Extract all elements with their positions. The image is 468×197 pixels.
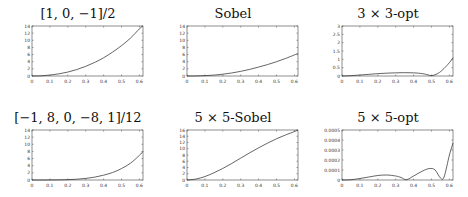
y-tick-label: 14 bbox=[24, 128, 30, 133]
plot-3x3-opt: 3 × 3-opt 00.511.522.5300.10.20.30.40.50… bbox=[310, 0, 466, 98]
x-tick-label: 0.6 bbox=[446, 183, 453, 188]
x-tick-label: 0.6 bbox=[136, 183, 143, 188]
plot-area: 0246810121400.10.20.30.40.50.6 bbox=[0, 104, 156, 197]
x-tick-label: 0 bbox=[341, 183, 344, 188]
plot-diff-5tap: [−1, 8, 0, −8, 1]/12 0246810121400.10.20… bbox=[0, 104, 156, 197]
x-tick-label: 0.5 bbox=[428, 79, 435, 84]
x-tick-label: 0 bbox=[186, 183, 189, 188]
x-tick-label: 0.2 bbox=[219, 79, 226, 84]
y-tick-label: 0.0002 bbox=[324, 158, 340, 163]
plot-area: 00.00010.00020.00030.00040.000500.10.20.… bbox=[310, 104, 466, 197]
y-tick-label: 0 bbox=[182, 178, 185, 183]
y-tick-label: 4 bbox=[27, 59, 30, 64]
data-curve bbox=[342, 143, 453, 180]
x-tick-label: 0.5 bbox=[118, 79, 125, 84]
x-tick-label: 0.5 bbox=[118, 183, 125, 188]
x-tick-label: 0 bbox=[31, 183, 34, 188]
x-tick-label: 0.2 bbox=[64, 79, 71, 84]
plot-5x5-sobel: 5 × 5-Sobel 024681012141600.10.20.30.40.… bbox=[155, 104, 311, 197]
plot-area: 024681012141600.10.20.30.40.50.6 bbox=[155, 104, 311, 197]
plot-frame bbox=[342, 26, 453, 76]
y-tick-label: 12 bbox=[179, 31, 185, 36]
x-tick-label: 0 bbox=[186, 79, 189, 84]
y-tick-label: 12 bbox=[24, 135, 30, 140]
y-tick-label: 0 bbox=[27, 178, 30, 183]
y-tick-label: 4 bbox=[182, 165, 185, 170]
x-tick-label: 0.1 bbox=[356, 79, 363, 84]
x-tick-label: 0.5 bbox=[428, 183, 435, 188]
x-tick-label: 0.2 bbox=[374, 79, 381, 84]
x-tick-label: 0.4 bbox=[100, 79, 107, 84]
x-tick-label: 0.1 bbox=[201, 183, 208, 188]
x-tick-label: 0.2 bbox=[374, 183, 381, 188]
y-tick-label: 10 bbox=[24, 142, 30, 147]
plot-area: 0246810121400.10.20.30.40.50.6 bbox=[155, 0, 311, 98]
y-tick-label: 2 bbox=[337, 40, 340, 45]
y-tick-label: 14 bbox=[24, 24, 30, 29]
y-tick-label: 14 bbox=[179, 134, 185, 139]
x-tick-label: 0.2 bbox=[219, 183, 226, 188]
x-tick-label: 0.4 bbox=[410, 79, 417, 84]
x-tick-label: 0.3 bbox=[392, 183, 399, 188]
y-tick-label: 12 bbox=[24, 31, 30, 36]
plot-area: 0246810121400.10.20.30.40.50.6 bbox=[0, 0, 156, 98]
plot-frame bbox=[187, 130, 298, 180]
x-tick-label: 0.5 bbox=[273, 79, 280, 84]
data-curve bbox=[187, 130, 298, 180]
y-tick-label: 2.5 bbox=[333, 32, 340, 37]
x-tick-label: 0.3 bbox=[392, 79, 399, 84]
plot-diff-central: [1, 0, −1]/2 0246810121400.10.20.30.40.5… bbox=[0, 0, 156, 98]
x-tick-label: 0.3 bbox=[237, 79, 244, 84]
plot-sobel: Sobel 0246810121400.10.20.30.40.50.6 bbox=[155, 0, 311, 98]
y-tick-label: 8 bbox=[182, 153, 185, 158]
plot-frame bbox=[32, 130, 143, 180]
y-tick-label: 6 bbox=[182, 159, 185, 164]
y-tick-label: 10 bbox=[179, 38, 185, 43]
data-curve bbox=[32, 26, 143, 76]
plot-frame bbox=[32, 26, 143, 76]
y-tick-label: 2 bbox=[27, 66, 30, 71]
x-tick-label: 0.1 bbox=[201, 79, 208, 84]
y-tick-label: 8 bbox=[182, 45, 185, 50]
y-tick-label: 1.5 bbox=[333, 49, 340, 54]
plot-area: 00.511.522.5300.10.20.30.40.50.6 bbox=[310, 0, 466, 98]
x-tick-label: 0.3 bbox=[82, 183, 89, 188]
x-tick-label: 0.3 bbox=[237, 183, 244, 188]
y-tick-label: 1 bbox=[337, 57, 340, 62]
data-curve bbox=[342, 58, 453, 76]
y-tick-label: 0.0003 bbox=[324, 148, 340, 153]
x-tick-label: 0.4 bbox=[255, 183, 262, 188]
x-tick-label: 0.6 bbox=[136, 79, 143, 84]
y-tick-label: 2 bbox=[27, 170, 30, 175]
x-tick-label: 0 bbox=[341, 79, 344, 84]
y-tick-label: 8 bbox=[27, 149, 30, 154]
y-tick-label: 6 bbox=[182, 52, 185, 57]
x-tick-label: 0.4 bbox=[100, 183, 107, 188]
x-tick-label: 0.2 bbox=[64, 183, 71, 188]
plot-frame bbox=[342, 130, 453, 180]
y-tick-label: 0.0004 bbox=[324, 138, 340, 143]
plot-5x5-opt: 5 × 5-opt 00.00010.00020.00030.00040.000… bbox=[310, 104, 466, 197]
x-tick-label: 0.6 bbox=[291, 79, 298, 84]
data-curve bbox=[32, 151, 143, 180]
y-tick-label: 6 bbox=[27, 52, 30, 57]
x-tick-label: 0.1 bbox=[46, 183, 53, 188]
y-tick-label: 0 bbox=[337, 74, 340, 79]
y-tick-label: 2 bbox=[182, 66, 185, 71]
x-tick-label: 0.5 bbox=[273, 183, 280, 188]
plot-frame bbox=[187, 26, 298, 76]
y-tick-label: 2 bbox=[182, 171, 185, 176]
x-tick-label: 0.4 bbox=[410, 183, 417, 188]
y-tick-label: 4 bbox=[182, 59, 185, 64]
y-tick-label: 10 bbox=[179, 146, 185, 151]
y-tick-label: 3 bbox=[337, 24, 340, 29]
data-curve bbox=[187, 54, 298, 77]
y-tick-label: 6 bbox=[27, 156, 30, 161]
y-tick-label: 8 bbox=[27, 45, 30, 50]
y-tick-label: 14 bbox=[179, 24, 185, 29]
x-tick-label: 0.4 bbox=[255, 79, 262, 84]
y-tick-label: 10 bbox=[24, 38, 30, 43]
y-tick-label: 0.5 bbox=[333, 65, 340, 70]
y-tick-label: 0 bbox=[182, 74, 185, 79]
y-tick-label: 0.0005 bbox=[324, 128, 340, 133]
